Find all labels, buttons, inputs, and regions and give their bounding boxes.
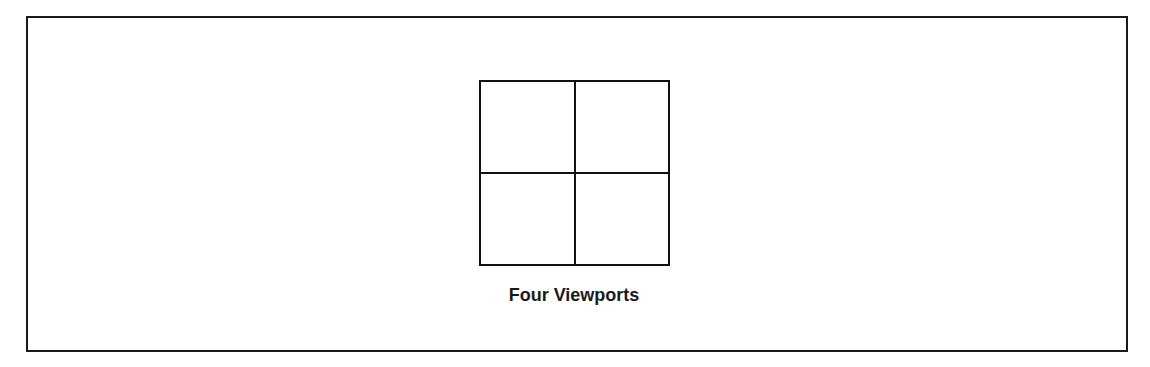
four-viewport-layout-diagram: [479, 80, 670, 266]
viewport-bottom-right: [575, 173, 669, 264]
viewport-top-left: [481, 82, 575, 173]
viewport-bottom-left: [481, 173, 575, 264]
layout-caption: Four Viewports: [474, 285, 674, 306]
viewport-top-right: [575, 82, 669, 173]
